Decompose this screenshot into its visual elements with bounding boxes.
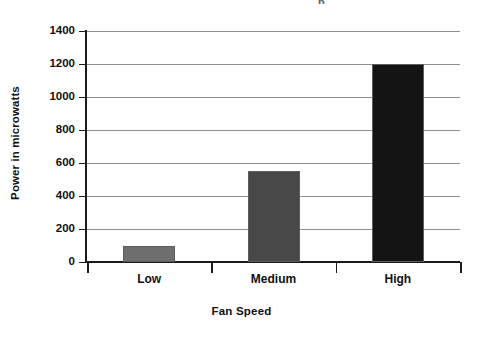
x-axis-title: Fan Speed bbox=[0, 305, 483, 317]
y-axis-tick-label: 400 bbox=[31, 190, 75, 202]
bar-high bbox=[372, 64, 424, 262]
chart-title-cropped: p bbox=[318, 0, 332, 4]
y-axis-tick-label: 200 bbox=[31, 223, 75, 235]
y-axis-tick-label: 800 bbox=[31, 124, 75, 136]
y-axis-tick-label: 600 bbox=[31, 157, 75, 169]
x-axis-tick bbox=[211, 262, 213, 273]
y-axis-tick-label: 1200 bbox=[31, 58, 75, 70]
x-axis-tick-label: High bbox=[348, 272, 448, 286]
y-axis-tick-label: 1400 bbox=[31, 25, 75, 37]
x-axis-tick bbox=[87, 262, 89, 273]
x-axis-tick bbox=[336, 262, 338, 273]
gridline bbox=[87, 31, 460, 32]
y-axis-title: Power in microwatts bbox=[9, 12, 27, 274]
x-axis-tick-label: Low bbox=[99, 272, 199, 286]
bar-chart-figure: p Power in microwatts 020040060080010001… bbox=[0, 0, 483, 339]
y-axis-tick bbox=[79, 229, 85, 230]
plot-area bbox=[87, 31, 460, 262]
y-axis-tick bbox=[79, 196, 85, 197]
y-axis-tick bbox=[79, 163, 85, 164]
y-axis-tick bbox=[79, 130, 85, 131]
y-axis-tick bbox=[79, 31, 85, 32]
bar-low bbox=[123, 246, 175, 263]
y-axis-tick bbox=[79, 64, 85, 65]
x-axis-tick bbox=[460, 262, 462, 273]
x-axis-tick-label: Medium bbox=[224, 272, 324, 286]
y-axis-tick-label: 1000 bbox=[31, 91, 75, 103]
bar-medium bbox=[248, 171, 300, 262]
y-axis-tick bbox=[79, 97, 85, 98]
